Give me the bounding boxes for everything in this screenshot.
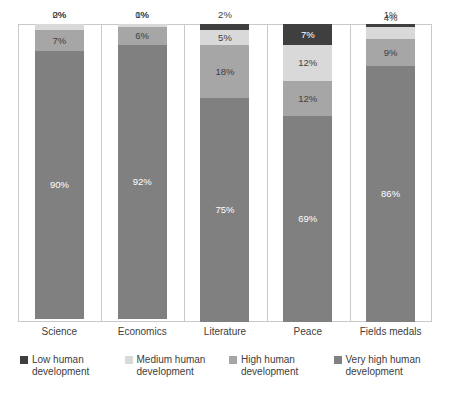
x-tick-economics: Economics <box>101 326 184 338</box>
bar-column-peace: 7%12%12%69% <box>266 24 349 322</box>
bar-segment[interactable]: 5% <box>200 30 249 45</box>
bar-segment[interactable]: 90% <box>35 51 84 319</box>
segment-value-label: 69% <box>298 214 317 224</box>
bar-column-economics: 0%1%6%92% <box>101 24 184 322</box>
bar-segment[interactable]: 12% <box>283 81 332 117</box>
legend-label: Very high humandevelopment <box>346 354 421 378</box>
stacked-bar[interactable]: 2%5%18%75% <box>200 24 249 322</box>
bar-segment[interactable]: 7% <box>283 24 332 45</box>
bar-column-science: 0%2%7%90% <box>18 24 101 322</box>
legend-swatch-icon <box>334 356 342 364</box>
bar-segment[interactable]: 18% <box>200 45 249 99</box>
bar-column-fields-medals: 1%4%9%86% <box>349 24 432 322</box>
segment-value-label: 7% <box>301 30 315 40</box>
x-tick-fields-medals: Fields medals <box>349 326 432 338</box>
bar-segment[interactable]: 75% <box>200 98 249 322</box>
segment-value-label: 90% <box>50 180 69 190</box>
stacked-bar-chart: 0%2%7%90%0%1%6%92%2%5%18%75%7%12%12%69%1… <box>0 0 450 393</box>
legend-item[interactable]: Low humandevelopment <box>20 354 125 378</box>
stacked-bar[interactable]: 0%2%7%90% <box>35 24 84 322</box>
legend-swatch-icon <box>125 356 133 364</box>
x-tick-literature: Literature <box>184 326 267 338</box>
segment-value-label: 12% <box>298 94 317 104</box>
legend-swatch-icon <box>229 356 237 364</box>
bar-segment[interactable]: 6% <box>118 27 167 45</box>
segment-value-label: 2% <box>218 10 232 20</box>
segment-value-label: 1% <box>135 10 149 20</box>
segment-value-label: 92% <box>133 177 152 187</box>
segment-value-label: 7% <box>53 36 67 46</box>
x-axis-tick-labels: ScienceEconomicsLiteraturePeaceFields me… <box>18 326 432 338</box>
segment-value-label: 9% <box>384 48 398 58</box>
bar-segment[interactable]: 86% <box>366 66 415 322</box>
legend-item[interactable]: Medium humandevelopment <box>125 354 230 378</box>
legend-label: High humandevelopment <box>241 354 298 378</box>
stacked-bar[interactable]: 1%4%9%86% <box>366 24 415 322</box>
bar-segment[interactable]: 7% <box>35 30 84 51</box>
chart-legend: Low humandevelopmentMedium humandevelopm… <box>20 354 438 378</box>
segment-value-label: 6% <box>135 31 149 41</box>
bar-segment[interactable]: 69% <box>283 116 332 322</box>
legend-label: Medium humandevelopment <box>137 354 206 378</box>
segment-value-label: 4% <box>384 13 398 23</box>
bar-segment[interactable]: 12% <box>283 45 332 81</box>
x-tick-peace: Peace <box>266 326 349 338</box>
legend-swatch-icon <box>20 356 28 364</box>
bar-segment[interactable]: 4% <box>366 27 415 39</box>
stacked-bar[interactable]: 0%1%6%92% <box>118 24 167 322</box>
segment-value-label: 75% <box>215 205 234 215</box>
x-tick-science: Science <box>18 326 101 338</box>
segment-value-label: 18% <box>215 67 234 77</box>
legend-item[interactable]: Very high humandevelopment <box>334 354 439 378</box>
segment-value-label: 86% <box>381 189 400 199</box>
segment-value-label: 2% <box>53 10 67 20</box>
bar-segment[interactable]: 9% <box>366 39 415 66</box>
bar-segment[interactable]: 92% <box>118 45 167 319</box>
segment-value-label: 5% <box>218 33 232 43</box>
legend-item[interactable]: High humandevelopment <box>229 354 334 378</box>
bar-column-literature: 2%5%18%75% <box>184 24 267 322</box>
segment-value-label: 12% <box>298 58 317 68</box>
stacked-bar[interactable]: 7%12%12%69% <box>283 24 332 322</box>
bars-layer: 0%2%7%90%0%1%6%92%2%5%18%75%7%12%12%69%1… <box>18 24 432 322</box>
legend-label: Low humandevelopment <box>32 354 89 378</box>
